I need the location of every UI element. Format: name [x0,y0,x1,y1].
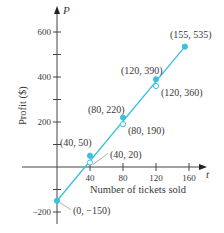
point-label: (155, 535) [170,29,212,41]
data-point [54,198,59,203]
data-point [120,115,125,120]
y-tick-label: 400 [38,72,52,82]
y-axis-arrow-icon [54,6,60,14]
line-value-point [120,122,125,127]
point-label: (80, 220) [88,104,125,116]
label-leader [60,203,71,210]
x-axis-label: Number of tickets sold [90,184,187,195]
point-label: (120, 390) [121,65,163,77]
point-label: (40, 20) [110,149,142,161]
data-point [87,153,92,158]
point-label: (80, 190) [128,125,165,137]
y-tick-label: 600 [38,27,52,37]
x-tick-label: 40 [86,173,96,183]
x-axis-symbol: t [206,168,210,180]
line-value-point [87,160,92,165]
data-point [153,77,158,82]
data-point [182,44,187,49]
y-axis-symbol: P [62,4,70,16]
point-label: (40, 50) [60,137,92,149]
line-value-point [153,83,158,88]
chart: 4080120160600400200−200 P t Number of ti… [0,0,224,233]
x-tick-label: 160 [182,173,196,183]
point-label: (0, −150) [73,205,110,217]
x-tick-label: 120 [149,173,163,183]
y-tick-label: −200 [32,207,51,217]
point-label: (120, 360) [161,87,203,99]
x-tick-label: 80 [119,173,129,183]
y-tick-label: 200 [38,117,52,127]
y-axis-label: Profit ($) [17,86,29,125]
